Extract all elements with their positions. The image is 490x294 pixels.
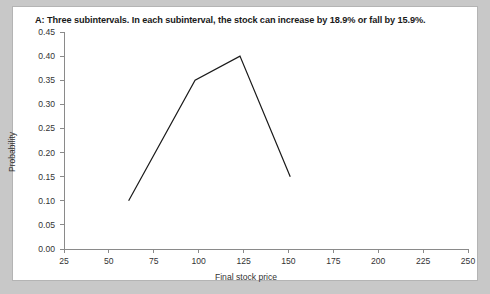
x-tick-label: 75	[134, 256, 174, 266]
x-tick-label: 50	[89, 256, 129, 266]
x-tick-label: 225	[403, 256, 443, 266]
chart-canvas	[13, 7, 479, 282]
x-axis-label: Final stock price	[13, 272, 479, 282]
y-tick-label: 0.20	[21, 148, 55, 158]
y-tick-label: 0.10	[21, 196, 55, 206]
y-tick-label: 0.30	[21, 99, 55, 109]
y-tick-label: 0.00	[21, 244, 55, 254]
x-tick-label: 150	[268, 256, 308, 266]
y-tick-label: 0.05	[21, 220, 55, 230]
y-tick-label: 0.40	[21, 51, 55, 61]
plot-area: Probability Final stock price 0.000.050.…	[13, 7, 479, 282]
x-tick-label: 100	[179, 256, 219, 266]
chart-figure: A: Three subintervals. In each subinterv…	[12, 6, 478, 281]
y-tick-label: 0.35	[21, 75, 55, 85]
x-tick-label: 175	[313, 256, 353, 266]
y-tick-label: 0.45	[21, 27, 55, 37]
data-series-line	[129, 56, 291, 201]
x-tick-label: 200	[358, 256, 398, 266]
x-tick-label: 250	[448, 256, 488, 266]
x-tick-label: 25	[44, 256, 84, 266]
y-axis-label: Probability	[7, 132, 17, 172]
y-tick-label: 0.25	[21, 123, 55, 133]
y-tick-label: 0.15	[21, 172, 55, 182]
x-tick-label: 125	[224, 256, 264, 266]
